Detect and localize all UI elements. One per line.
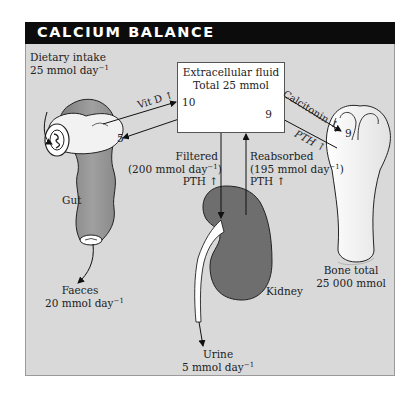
secretion-arrow xyxy=(123,118,182,138)
ecf-in-from-gut-value: 10 xyxy=(182,96,195,108)
ecf-out-to-bone-value: 9 xyxy=(265,108,272,120)
urine-label: Urine 5 mmol day−1 xyxy=(178,348,258,373)
bone-total-label: Bone total 25 000 mmol xyxy=(312,264,390,289)
extracellular-fluid-box: Extracellular fluid Total 25 mmol 10 9 xyxy=(177,62,285,133)
ecf-title: Extracellular fluid xyxy=(178,66,284,79)
faeces-label: Faeces 20 mmol day−1 xyxy=(45,284,115,309)
dietary-intake-label: Dietary intake 25 mmol day−1 xyxy=(30,51,109,76)
faeces-arrow xyxy=(78,244,93,283)
urine-arrow xyxy=(199,322,203,346)
ecf-total: Total 25 mmol xyxy=(178,79,284,92)
reabsorbed-label: Reabsorbed (195 mmol day−1) PTH ↑ xyxy=(250,150,344,188)
filtered-label: Filtered (200 mmol day−1) PTH ↑ xyxy=(128,150,218,188)
kidney-label: Kidney xyxy=(266,285,303,298)
gut-secretion-value: 5 xyxy=(117,132,124,144)
kidney-illustration xyxy=(203,186,272,300)
bone-in-value: 9 xyxy=(345,127,352,139)
gut-label: Gut xyxy=(62,194,81,207)
